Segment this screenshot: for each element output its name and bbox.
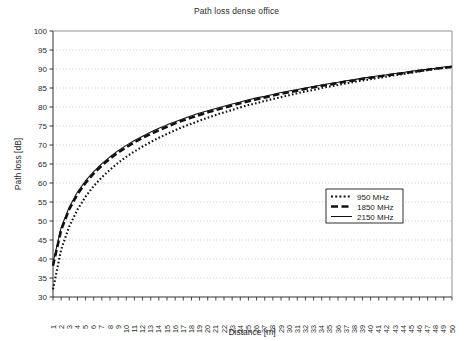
svg-text:65: 65 [38, 160, 47, 169]
svg-text:95: 95 [38, 46, 47, 55]
data-series-lines [53, 66, 452, 289]
svg-text:55: 55 [38, 198, 47, 207]
x-axis-title: Distance [m] [228, 327, 275, 337]
svg-text:35: 35 [38, 274, 47, 283]
svg-text:50: 50 [448, 325, 457, 333]
svg-text:30: 30 [38, 293, 47, 302]
svg-text:75: 75 [38, 122, 47, 131]
y-axis-title: Path loss [dB] [13, 138, 23, 190]
svg-text:80: 80 [38, 103, 47, 112]
svg-text:45: 45 [38, 236, 47, 245]
y-axis-ticks: 3035404550556065707580859095100 [34, 27, 53, 302]
path-loss-chart-figure: Path loss dense office 30354045505560657… [0, 0, 473, 341]
chart-plot-area: 3035404550556065707580859095100 12345678… [0, 0, 473, 341]
svg-text:40: 40 [38, 255, 47, 264]
svg-text:100: 100 [34, 27, 48, 36]
svg-text:90: 90 [38, 65, 47, 74]
svg-text:60: 60 [38, 179, 47, 188]
svg-text:70: 70 [38, 141, 47, 150]
grid-lines [53, 50, 452, 278]
svg-text:85: 85 [38, 84, 47, 93]
svg-text:50: 50 [38, 217, 47, 226]
